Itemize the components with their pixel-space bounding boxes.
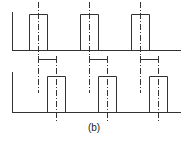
pulse-diagram: (b): [0, 0, 189, 141]
figure-label: (b): [88, 122, 100, 133]
